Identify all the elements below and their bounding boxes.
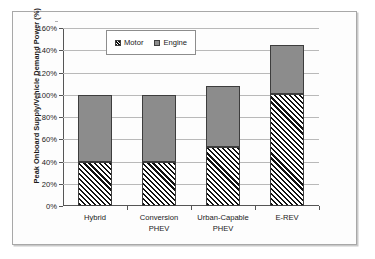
bar-segment-engine bbox=[206, 86, 240, 147]
y-tick-label: 0% bbox=[46, 202, 57, 211]
legend-swatch-engine-icon bbox=[154, 40, 160, 46]
legend-swatch-motor-icon bbox=[115, 40, 121, 46]
x-tick-mark bbox=[319, 206, 320, 210]
y-tick-mark bbox=[59, 73, 63, 74]
x-axis-label: E-REV bbox=[255, 213, 319, 224]
y-tick-label: 40% bbox=[42, 157, 57, 166]
x-axis-label-line: PHEV bbox=[127, 224, 191, 235]
bar-segment-engine bbox=[78, 95, 112, 162]
y-tick-mark bbox=[59, 95, 63, 96]
x-axis-label-line: PHEV bbox=[191, 224, 255, 235]
legend-entry: Motor bbox=[115, 38, 143, 47]
chart-legend: MotorEngine bbox=[106, 30, 196, 55]
legend-label: Motor bbox=[124, 38, 143, 47]
legend-entry: Engine bbox=[154, 38, 187, 47]
y-tick-mark bbox=[59, 162, 63, 163]
x-axis-label: Hybrid bbox=[63, 213, 127, 224]
y-tick-label: 140% bbox=[38, 46, 57, 55]
bar-group bbox=[270, 28, 304, 206]
y-tick-mark bbox=[59, 117, 63, 118]
y-tick-label: 20% bbox=[42, 179, 57, 188]
y-axis-title: Peak Onboard Supply/Vehicle Demand Power… bbox=[32, 16, 41, 184]
y-tick-mark bbox=[59, 50, 63, 51]
x-tick-mark bbox=[127, 206, 128, 210]
bar-segment-motor bbox=[78, 162, 112, 207]
x-tick-mark bbox=[191, 206, 192, 210]
x-axis-label: ConversionPHEV bbox=[127, 213, 191, 234]
stacked-bar-chart: Peak Onboard Supply/Vehicle Demand Power… bbox=[13, 12, 356, 244]
x-axis-label-line: Urban-Capable bbox=[191, 213, 255, 224]
bar-segment-engine bbox=[142, 95, 176, 162]
y-tick-label: 160% bbox=[38, 24, 57, 33]
figure-frame: Peak Onboard Supply/Vehicle Demand Power… bbox=[12, 11, 357, 245]
y-tick-mark bbox=[59, 184, 63, 185]
bar-group bbox=[206, 28, 240, 206]
bar-segment-motor bbox=[142, 162, 176, 207]
y-tick-label: 120% bbox=[38, 68, 57, 77]
x-axis-label-line: Hybrid bbox=[63, 213, 127, 224]
scan-artifact bbox=[55, 21, 58, 22]
y-tick-label: 100% bbox=[38, 90, 57, 99]
legend-label: Engine bbox=[163, 38, 187, 47]
bar-segment-motor bbox=[206, 147, 240, 206]
y-tick-mark bbox=[59, 139, 63, 140]
x-axis-label: Urban-CapablePHEV bbox=[191, 213, 255, 234]
y-tick-mark bbox=[59, 206, 63, 207]
y-tick-mark bbox=[59, 28, 63, 29]
y-tick-label: 60% bbox=[42, 135, 57, 144]
x-axis-label-line: Conversion bbox=[127, 213, 191, 224]
y-tick-label: 80% bbox=[42, 113, 57, 122]
bar-segment-engine bbox=[270, 45, 304, 94]
bar-segment-motor bbox=[270, 94, 304, 206]
x-tick-mark bbox=[255, 206, 256, 210]
x-axis-label-line: E-REV bbox=[255, 213, 319, 224]
